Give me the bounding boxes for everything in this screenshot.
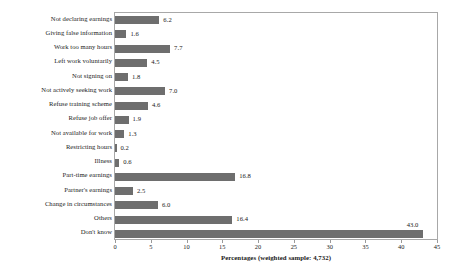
bar bbox=[115, 201, 158, 209]
bar bbox=[115, 45, 170, 53]
x-axis-tick-label: 35 bbox=[353, 243, 377, 250]
bar bbox=[115, 173, 235, 181]
bar bbox=[115, 30, 126, 38]
category-label: Giving false information bbox=[12, 29, 112, 36]
category-label: Part-time earnings bbox=[12, 171, 112, 178]
bar-value-label: 4.5 bbox=[151, 58, 159, 65]
bar bbox=[115, 59, 147, 67]
bar bbox=[115, 87, 165, 95]
category-label: Work too many hours bbox=[12, 43, 112, 50]
bar-value-label: 43.0 bbox=[407, 221, 419, 228]
bar bbox=[115, 187, 133, 195]
category-label: Left work voluntarily bbox=[12, 57, 112, 64]
category-label: Not signing on bbox=[12, 72, 112, 79]
bar-value-label: 2.5 bbox=[137, 187, 145, 194]
bar-value-label: 6.0 bbox=[162, 201, 170, 208]
bars-container: 6.21.67.74.51.87.04.61.91.30.20.616.82.5… bbox=[115, 13, 437, 239]
category-label: Not available for work bbox=[12, 129, 112, 136]
x-axis: 051015202530354045 bbox=[114, 240, 438, 254]
bar bbox=[115, 216, 232, 224]
x-axis-tick-label: 45 bbox=[425, 243, 449, 250]
bar bbox=[115, 159, 119, 167]
x-axis-tick-label: 10 bbox=[175, 243, 199, 250]
category-label: Illness bbox=[12, 157, 112, 164]
x-axis-tick-label: 30 bbox=[318, 243, 342, 250]
category-label: Not declaring earnings bbox=[12, 15, 112, 22]
bar bbox=[115, 16, 159, 24]
category-label: Others bbox=[12, 214, 112, 221]
bar-value-label: 0.6 bbox=[123, 158, 131, 165]
bar-value-label: 7.0 bbox=[169, 87, 177, 94]
bar bbox=[115, 102, 148, 110]
category-label: Restricting hours bbox=[12, 143, 112, 150]
bar-value-label: 6.2 bbox=[163, 16, 171, 23]
category-label-column: Not declaring earningsGiving false infor… bbox=[12, 12, 114, 240]
bar-value-label: 16.8 bbox=[239, 172, 251, 179]
bar-value-label: 1.9 bbox=[133, 115, 141, 122]
bar-value-label: 1.6 bbox=[130, 30, 138, 37]
category-label: Not actively seeking work bbox=[12, 86, 112, 93]
x-axis-tick-label: 5 bbox=[139, 243, 163, 250]
bar-value-label: 16.4 bbox=[236, 215, 248, 222]
x-axis-tick-label: 25 bbox=[282, 243, 306, 250]
category-label: Change in circumstances bbox=[12, 200, 112, 207]
bar-value-label: 7.7 bbox=[174, 44, 182, 51]
category-label: Don't know bbox=[12, 228, 112, 235]
x-axis-title: Percentages (weighted sample: 4,732) bbox=[114, 254, 438, 261]
bar bbox=[115, 130, 124, 138]
bar-value-label: 4.6 bbox=[152, 101, 160, 108]
x-axis-tick-label: 15 bbox=[210, 243, 234, 250]
x-axis-tick-label: 0 bbox=[103, 243, 127, 250]
bar-value-label: 1.8 bbox=[132, 73, 140, 80]
category-label: Refuse training scheme bbox=[12, 100, 112, 107]
bar bbox=[115, 116, 129, 124]
category-label: Refuse job offer bbox=[12, 114, 112, 121]
bar-value-label: 0.2 bbox=[121, 144, 129, 151]
bar bbox=[115, 230, 423, 238]
chart-page: Factors restricting benefit Not declarin… bbox=[0, 0, 450, 273]
x-axis-tick-label: 40 bbox=[389, 243, 413, 250]
bar-value-label: 1.3 bbox=[128, 130, 136, 137]
bar bbox=[115, 73, 128, 81]
category-label: Partner's earnings bbox=[12, 186, 112, 193]
x-axis-tick-label: 20 bbox=[246, 243, 270, 250]
plot-area: 6.21.67.74.51.87.04.61.91.30.20.616.82.5… bbox=[114, 12, 438, 240]
bar bbox=[115, 144, 117, 152]
